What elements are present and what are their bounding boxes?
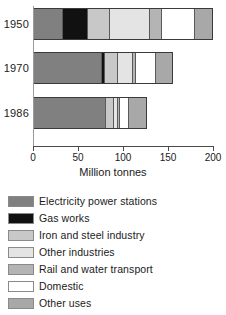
legend-label: Electricity power stations: [39, 195, 157, 207]
legend-swatch: [8, 213, 34, 224]
legend-item: Electricity power stations: [8, 193, 226, 209]
bar-segment: [162, 9, 195, 39]
x-axis-title: Million tonnes: [0, 166, 226, 178]
x-axis-tick-label: 50: [72, 152, 83, 163]
bar-year-label: 1950: [4, 18, 29, 30]
x-axis-tick: [123, 147, 124, 151]
legend-label: Other industries: [39, 246, 115, 258]
bar-stack: [33, 8, 213, 40]
legend-label: Iron and steel industry: [39, 229, 145, 241]
chart-legend: Electricity power stationsGas worksIron …: [8, 193, 226, 312]
bar-year-label: 1970: [4, 62, 29, 74]
legend-label: Rail and water transport: [39, 263, 153, 275]
legend-item: Iron and steel industry: [8, 227, 226, 243]
bar-stack: [33, 52, 173, 84]
bar-segment: [150, 9, 162, 39]
bar-segment: [195, 9, 212, 39]
bar-segment: [34, 53, 102, 83]
bar-segment: [136, 53, 156, 83]
bar-segment: [88, 9, 109, 39]
legend-item: Rail and water transport: [8, 261, 226, 277]
stacked-bar-chart: 195019701986 050100150200 Million tonnes…: [0, 0, 226, 315]
bar-stack: [33, 97, 147, 129]
bar-segment: [129, 98, 147, 128]
legend-label: Gas works: [39, 212, 90, 224]
y-axis-line: [33, 6, 34, 146]
x-axis-tick-label: 150: [160, 152, 177, 163]
bar-segment: [63, 9, 88, 39]
legend-item: Domestic: [8, 278, 226, 294]
bar-segment: [105, 53, 118, 83]
x-axis-tick: [78, 147, 79, 151]
bar-segment: [106, 98, 114, 128]
x-axis-tick-label: 200: [205, 152, 222, 163]
bar-segment: [34, 9, 63, 39]
legend-swatch: [8, 196, 34, 207]
legend-item: Other industries: [8, 244, 226, 260]
x-axis-tick: [213, 147, 214, 151]
bar-year-label: 1986: [4, 107, 29, 119]
x-axis-tick: [33, 147, 34, 151]
legend-label: Domestic: [39, 280, 84, 292]
legend-swatch: [8, 247, 34, 258]
legend-swatch: [8, 298, 34, 309]
x-axis-tick: [168, 147, 169, 151]
legend-item: Gas works: [8, 210, 226, 226]
plot-area: 195019701986 050100150200 Million tonnes: [0, 0, 226, 150]
legend-swatch: [8, 281, 34, 292]
legend-label: Other uses: [39, 297, 91, 309]
legend-swatch: [8, 264, 34, 275]
bar-segment: [118, 53, 133, 83]
legend-swatch: [8, 230, 34, 241]
bar-segment: [120, 98, 129, 128]
bar-segment: [110, 9, 150, 39]
legend-item: Other uses: [8, 295, 226, 311]
x-axis-tick-label: 0: [30, 152, 36, 163]
x-axis-tick-label: 100: [115, 152, 132, 163]
bar-segment: [34, 98, 106, 128]
bar-segment: [156, 53, 171, 83]
